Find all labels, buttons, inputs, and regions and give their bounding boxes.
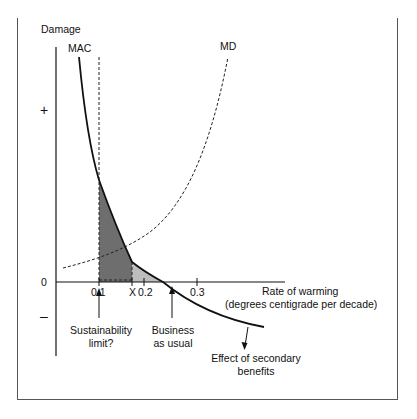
tick-label-0-3: 0.3 <box>190 286 205 299</box>
business-as-usual-label: Business as usual <box>148 324 198 350</box>
secondary-benefits-arrowhead-icon <box>242 342 248 350</box>
plus-sign: + <box>40 104 48 117</box>
secondary-line2: benefits <box>206 365 306 378</box>
sustainability-line1: Sustainability <box>66 324 136 337</box>
md-curve <box>63 57 228 268</box>
tick-label-0-2: 0.2 <box>138 286 153 299</box>
sustainability-line2: limit? <box>66 337 136 350</box>
secondary-benefits-label: Effect of secondary benefits <box>206 352 306 378</box>
y-axis-label: Damage <box>41 23 81 36</box>
business-line1: Business <box>148 324 198 337</box>
origin-label: 0 <box>41 276 47 289</box>
x-axis-label-line2: (degrees centigrade per decade) <box>225 298 377 311</box>
mac-curve <box>79 57 264 327</box>
business-line2: as usual <box>148 337 198 350</box>
minus-sign: – <box>40 310 48 323</box>
secondary-line1: Effect of secondary <box>206 352 306 365</box>
sustainability-limit-label: Sustainability limit? <box>66 324 136 350</box>
tick-label-x: X <box>129 286 136 299</box>
x-axis-label-line1: Rate of warming <box>262 285 338 298</box>
md-label: MD <box>220 40 236 53</box>
mac-label: MAC <box>68 42 91 55</box>
tick-label-0-1: 0.1 <box>91 286 106 299</box>
